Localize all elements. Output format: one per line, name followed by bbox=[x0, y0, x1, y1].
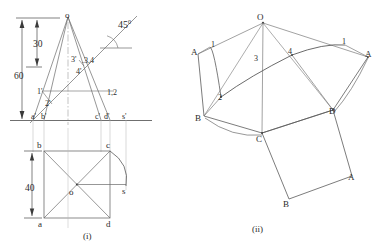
generator-O-to-C bbox=[262, 23, 263, 133]
label-gen-line-1-left: 1 bbox=[211, 41, 215, 49]
dim-arrow-60-bottom bbox=[20, 111, 25, 119]
dev-section-curve bbox=[210, 47, 221, 97]
label-corner-b-top: b bbox=[37, 141, 42, 150]
label-gen-line-2: 2 bbox=[218, 94, 222, 102]
base-edge-A-B bbox=[289, 176, 352, 199]
panel-i-front-view bbox=[10, 16, 152, 190]
label-gen-line-4: 4 bbox=[288, 48, 292, 56]
label-point-1prime: 1' bbox=[37, 88, 42, 96]
label-gen-line-3: 3 bbox=[254, 55, 258, 63]
label-corner-A-left: A bbox=[191, 48, 198, 57]
label-point-1-2: 1,2 bbox=[107, 89, 117, 97]
dev-edge-A-B-left bbox=[198, 54, 204, 116]
label-point-cprime: c' bbox=[95, 113, 100, 121]
front-edge-o-dprime bbox=[68, 17, 110, 120]
angle-45-degree-symbol: 0 bbox=[128, 19, 131, 25]
rotation-arc-c-to-s bbox=[110, 151, 127, 186]
generator-O-to-A-right bbox=[263, 23, 368, 57]
technical-drawing-canvas bbox=[0, 0, 385, 248]
label-base-corner-A: A bbox=[348, 173, 355, 182]
angle-arc-45 bbox=[107, 36, 118, 48]
arc-swing-D-to-A bbox=[334, 58, 368, 112]
dim-arrow-40-top bbox=[30, 153, 34, 161]
label-corner-D: D bbox=[329, 107, 336, 116]
label-corner-A-right: A bbox=[365, 50, 372, 59]
dev-section-curve-main bbox=[221, 45, 345, 97]
label-corner-d-top: d bbox=[106, 220, 111, 229]
front-edge-o-aprime bbox=[33, 17, 68, 120]
label-point-2prime: 2' bbox=[45, 100, 50, 108]
dim-arrow-60-top bbox=[20, 20, 25, 28]
label-point-3-4: .3,4 bbox=[82, 57, 94, 65]
angle-45-label: 450 bbox=[118, 19, 131, 30]
label-point-aprime: a' bbox=[31, 113, 36, 121]
base-edge-B-C bbox=[262, 133, 289, 199]
dim-arrow-40-bottom bbox=[30, 209, 34, 217]
base-edge-D-A bbox=[333, 110, 352, 176]
dev-edge-B-C bbox=[204, 116, 262, 133]
label-point-3prime: 3' bbox=[71, 56, 76, 64]
base-edge-C-D bbox=[262, 110, 333, 133]
label-gen-line-1-right: 1 bbox=[342, 38, 346, 46]
label-point-dprime: d' bbox=[104, 113, 109, 121]
label-base-corner-B: B bbox=[283, 200, 289, 209]
label-apex-O-dev: O bbox=[257, 13, 264, 22]
dimension-60-label: 60 bbox=[14, 72, 24, 82]
label-corner-B-left: B bbox=[195, 114, 201, 123]
label-point-sprime: s' bbox=[122, 113, 127, 121]
dim-arrow-30-bottom bbox=[35, 59, 39, 67]
dim-arrow-30-top bbox=[35, 20, 39, 28]
label-point-bprime: b' bbox=[41, 113, 46, 121]
dev-chord-1-to-A-left bbox=[198, 47, 210, 54]
generator-O-to-D bbox=[263, 23, 333, 110]
label-point-4prime: 4' bbox=[76, 68, 81, 76]
dimension-40-label: 40 bbox=[25, 184, 35, 194]
drawing-page: 30 60 40 450 o 3' .3,4 4' 1' 2' 1,2 a' b… bbox=[0, 0, 385, 248]
angle-45-value: 45 bbox=[118, 19, 128, 30]
label-corner-a-top: a bbox=[38, 220, 42, 229]
label-corner-C: C bbox=[256, 135, 262, 144]
dimension-30-label: 30 bbox=[33, 40, 43, 50]
label-point-s-top: s bbox=[122, 187, 126, 196]
arc-swing-B-to-C bbox=[205, 118, 262, 135]
dev-edge-D-A-right bbox=[333, 57, 368, 110]
label-apex-o-front: o bbox=[65, 11, 70, 20]
caption-figure-ii: (ii) bbox=[252, 225, 263, 234]
panel-ii-development bbox=[198, 22, 369, 199]
label-corner-c-top: c bbox=[106, 141, 110, 150]
label-center-o-top: o bbox=[69, 188, 74, 197]
dev-chord-4-to-D bbox=[292, 55, 333, 110]
caption-figure-i: (i) bbox=[83, 232, 92, 241]
